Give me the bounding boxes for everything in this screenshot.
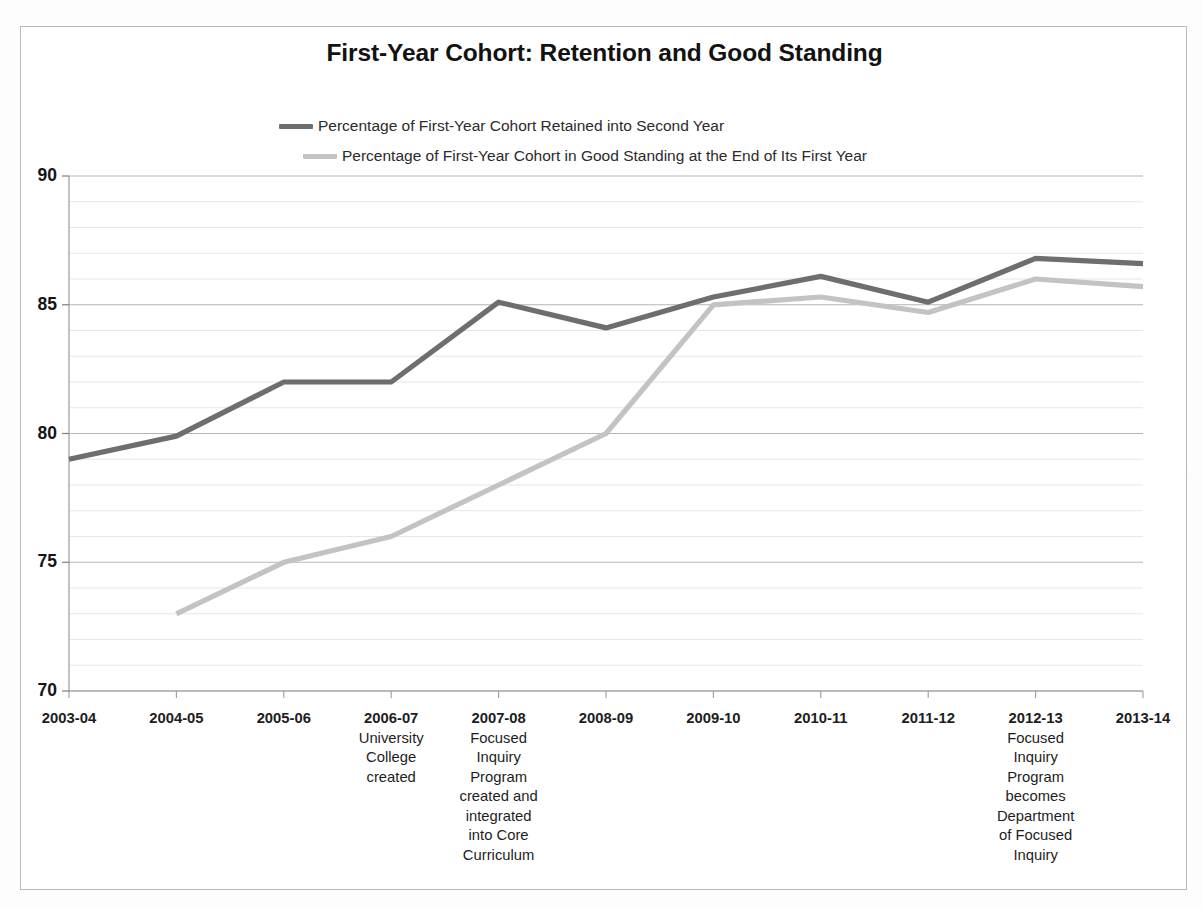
x-axis-annotation-line: Focused <box>440 729 558 749</box>
x-axis-annotation-line: Program <box>977 768 1095 788</box>
x-axis-annotation-line: Inquiry <box>977 748 1095 768</box>
x-axis-annotation-line: Program <box>440 768 558 788</box>
y-axis-tick-label: 80 <box>13 423 57 444</box>
x-axis-annotation-line: Inquiry <box>977 846 1095 866</box>
x-axis-annotation-line: becomes <box>977 787 1095 807</box>
x-axis-tick-label: 2009-10 <box>654 709 772 729</box>
series-line <box>69 258 1143 459</box>
chart-frame: First-Year Cohort: Retention and Good St… <box>20 26 1187 890</box>
x-axis-annotation-line: integrated <box>440 807 558 827</box>
x-axis-annotation-line: into Core <box>440 826 558 846</box>
x-axis-year-label: 2008-09 <box>547 709 665 729</box>
x-axis-tick-label: 2013-14 <box>1084 709 1202 729</box>
series-line <box>176 279 1143 614</box>
series-lines <box>69 258 1143 613</box>
x-axis-tick-label: 2004-05 <box>117 709 235 729</box>
y-axis-tick-label: 85 <box>13 294 57 315</box>
x-axis-tick-label: 2007-08FocusedInquiryProgramcreated andi… <box>440 709 558 865</box>
x-axis-annotation-line: of Focused <box>977 826 1095 846</box>
x-axis-annotation-line: Curriculum <box>440 846 558 866</box>
x-axis-ticks <box>69 691 1143 698</box>
x-axis-tick-label: 2011-12 <box>869 709 987 729</box>
x-axis-annotation-line: created and <box>440 787 558 807</box>
y-axis-tick-label: 90 <box>13 165 57 186</box>
x-axis-year-label: 2006-07 <box>332 709 450 729</box>
x-axis-tick-label: 2006-07UniversityCollegecreated <box>332 709 450 787</box>
x-axis-annotation-line: Department <box>977 807 1095 827</box>
x-axis-year-label: 2004-05 <box>117 709 235 729</box>
x-axis-year-label: 2009-10 <box>654 709 772 729</box>
page-canvas: First-Year Cohort: Retention and Good St… <box>0 0 1203 907</box>
x-axis-year-label: 2007-08 <box>440 709 558 729</box>
x-axis-year-label: 2010-11 <box>762 709 880 729</box>
x-axis-annotation-line: College <box>332 748 450 768</box>
x-axis-year-label: 2011-12 <box>869 709 987 729</box>
x-axis-tick-label: 2005-06 <box>225 709 343 729</box>
x-axis-tick-label: 2010-11 <box>762 709 880 729</box>
x-axis-annotation-line: created <box>332 768 450 788</box>
x-axis-annotation-line: Inquiry <box>440 748 558 768</box>
x-axis-year-label: 2013-14 <box>1084 709 1202 729</box>
x-axis-year-label: 2003-04 <box>10 709 128 729</box>
x-axis-tick-label: 2003-04 <box>10 709 128 729</box>
plot-area: 9085807570 2003-042004-052005-062006-07U… <box>21 27 1188 891</box>
y-axis-tick-label: 70 <box>13 680 57 701</box>
y-axis-ticks <box>62 176 69 691</box>
x-axis-annotation-line: Focused <box>977 729 1095 749</box>
x-axis-year-label: 2012-13 <box>977 709 1095 729</box>
y-axis-tick-label: 75 <box>13 551 57 572</box>
x-axis-annotation-line: University <box>332 729 450 749</box>
x-axis-tick-label: 2008-09 <box>547 709 665 729</box>
x-axis-tick-label: 2012-13FocusedInquiryProgrambecomesDepar… <box>977 709 1095 865</box>
x-axis-year-label: 2005-06 <box>225 709 343 729</box>
